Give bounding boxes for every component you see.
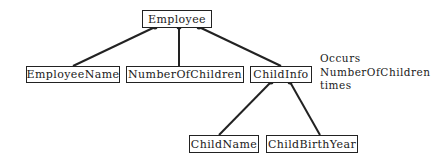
- edge-employee-employeename: [73, 27, 155, 66]
- annotation-line-2: NumberOfChildren: [320, 66, 431, 80]
- node-child-name: ChildName: [189, 135, 259, 153]
- annotation-line-1: Occurs: [320, 52, 431, 66]
- node-child-birth-year: ChildBirthYear: [266, 135, 358, 153]
- node-employee: Employee: [142, 10, 212, 28]
- edge-childinfo-childbirthyear: [290, 82, 320, 135]
- node-number-of-children: NumberOfChildren: [126, 66, 244, 83]
- occurrence-annotation: Occurs NumberOfChildren times: [320, 52, 431, 93]
- node-employee-name: EmployeeName: [26, 66, 120, 83]
- edge-childinfo-childname: [219, 82, 271, 135]
- node-child-info: ChildInfo: [250, 66, 312, 83]
- edge-employee-childinfo: [199, 27, 281, 66]
- annotation-line-3: times: [320, 79, 431, 93]
